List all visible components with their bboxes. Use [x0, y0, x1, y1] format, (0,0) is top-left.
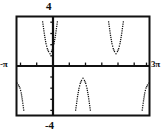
- data-point: [119, 46, 120, 47]
- data-point: [22, 103, 23, 104]
- data-point: [57, 21, 58, 22]
- data-point: [121, 35, 122, 36]
- data-point: [89, 107, 90, 108]
- data-point: [87, 90, 88, 91]
- graph-figure: 4 -4 -π 3π: [0, 0, 165, 135]
- data-point: [43, 28, 44, 29]
- data-point: [45, 41, 46, 42]
- data-point: [119, 43, 120, 44]
- data-point: [53, 46, 54, 47]
- data-point: [51, 49, 52, 50]
- data-point: [113, 49, 114, 50]
- data-point: [54, 37, 55, 38]
- data-point: [120, 39, 121, 40]
- data-point: [84, 80, 85, 81]
- data-point: [19, 87, 20, 88]
- data-point: [53, 43, 54, 44]
- data-point: [108, 24, 109, 25]
- data-point: [49, 53, 50, 54]
- x-axis-max-label: 3π: [151, 60, 160, 69]
- data-point: [145, 87, 146, 88]
- data-point: [111, 41, 112, 42]
- data-point: [87, 92, 88, 93]
- data-point: [78, 88, 79, 89]
- data-point: [118, 48, 119, 49]
- data-point: [142, 109, 143, 110]
- data-point: [43, 26, 44, 27]
- data-point: [87, 94, 88, 95]
- data-point: [78, 90, 79, 91]
- data-point: [109, 28, 110, 29]
- data-point: [146, 86, 147, 87]
- data-point: [47, 48, 48, 49]
- data-point: [48, 51, 49, 52]
- data-point: [84, 81, 85, 82]
- data-point: [52, 48, 53, 49]
- data-point: [122, 28, 123, 29]
- data-point: [114, 51, 115, 52]
- data-point: [46, 46, 47, 47]
- data-point: [76, 101, 77, 102]
- data-point: [45, 43, 46, 44]
- data-point: [111, 39, 112, 40]
- data-point: [145, 90, 146, 91]
- data-point: [44, 33, 45, 34]
- data-point: [78, 92, 79, 93]
- data-point: [42, 24, 43, 25]
- data-point: [81, 80, 82, 81]
- data-point: [143, 100, 144, 101]
- data-point: [109, 26, 110, 27]
- data-point: [113, 48, 114, 49]
- data-point: [85, 83, 86, 84]
- data-point: [75, 109, 76, 110]
- data-point: [115, 53, 116, 54]
- data-point: [82, 78, 83, 79]
- data-point: [142, 105, 143, 106]
- data-point: [18, 84, 19, 85]
- data-point: [22, 105, 23, 106]
- data-point: [76, 105, 77, 106]
- data-point: [43, 30, 44, 31]
- data-point: [20, 90, 21, 91]
- data-point: [109, 30, 110, 31]
- data-point: [23, 107, 24, 108]
- data-point: [120, 37, 121, 38]
- data-point: [42, 21, 43, 22]
- data-point: [44, 35, 45, 36]
- data-point: [21, 96, 22, 97]
- data-point: [22, 98, 23, 99]
- plot-canvas: [0, 0, 165, 135]
- data-point: [56, 26, 57, 27]
- data-point: [47, 49, 48, 50]
- data-point: [108, 21, 109, 22]
- data-point: [117, 49, 118, 50]
- data-point: [77, 94, 78, 95]
- data-point: [88, 98, 89, 99]
- y-axis-max-label: 4: [46, 1, 51, 12]
- data-point: [54, 41, 55, 42]
- data-point: [51, 51, 52, 52]
- data-point: [19, 86, 20, 87]
- data-point: [77, 96, 78, 97]
- data-point: [44, 37, 45, 38]
- data-point: [143, 103, 144, 104]
- data-point: [55, 35, 56, 36]
- y-axis-min-label: -4: [45, 120, 54, 131]
- data-point: [86, 88, 87, 89]
- data-point: [55, 33, 56, 34]
- data-point: [110, 35, 111, 36]
- data-point: [142, 107, 143, 108]
- data-point: [123, 21, 124, 22]
- data-point: [86, 85, 87, 86]
- data-point: [75, 107, 76, 108]
- data-point: [77, 98, 78, 99]
- data-point: [121, 33, 122, 34]
- data-point: [55, 30, 56, 31]
- data-point: [110, 33, 111, 34]
- data-point: [144, 92, 145, 93]
- data-point: [76, 103, 77, 104]
- data-point: [111, 43, 112, 44]
- data-point: [79, 85, 80, 86]
- data-point: [89, 103, 90, 104]
- data-point: [54, 39, 55, 40]
